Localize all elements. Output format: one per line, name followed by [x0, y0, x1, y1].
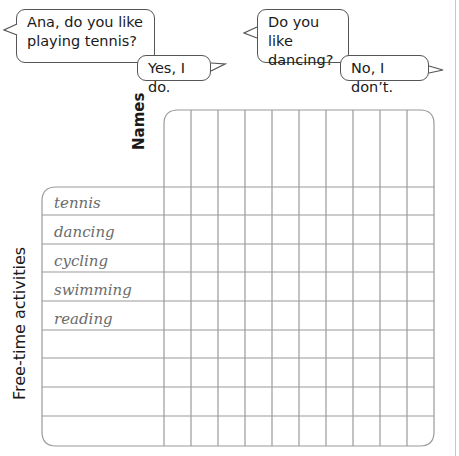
- names-column-label: Names: [130, 93, 148, 150]
- activity-row-reading: reading: [54, 310, 113, 328]
- activity-row-dancing: dancing: [54, 223, 115, 241]
- activity-row-cycling: cycling: [54, 252, 108, 270]
- activity-row-tennis: tennis: [54, 194, 101, 212]
- activity-row-swimming: swimming: [54, 281, 132, 299]
- activities-row-label: Free-time activities: [10, 247, 29, 400]
